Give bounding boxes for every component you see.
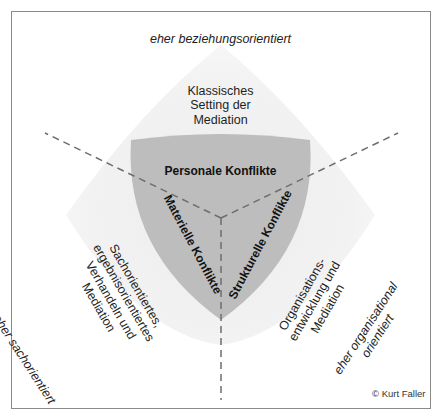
conflict-personal-label: Personale Konflikte [0, 165, 441, 179]
outer-region-top-line: Mediation [0, 113, 441, 127]
outer-region-top-line: Setting der [0, 98, 441, 112]
conflict-triangle-graphic [0, 0, 441, 418]
copyright-label: © Kurt Faller [372, 389, 425, 400]
outer-region-top-label: Klassisches Setting der Mediation [0, 84, 441, 127]
orientation-top-label: eher beziehungsorientiert [0, 32, 441, 46]
outer-region-top-line: Klassisches [0, 84, 441, 98]
